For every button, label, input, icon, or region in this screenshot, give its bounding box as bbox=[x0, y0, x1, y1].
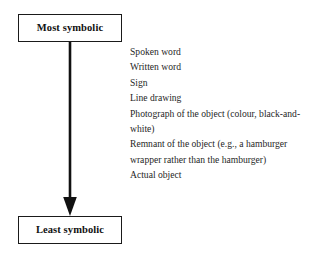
down-arrow-icon bbox=[60, 42, 80, 216]
least-symbolic-box: Least symbolic bbox=[18, 216, 122, 244]
list-item: Spoken word bbox=[130, 44, 320, 59]
most-symbolic-label: Most symbolic bbox=[37, 23, 103, 34]
list-item: Photograph of the object (colour, black-… bbox=[130, 106, 320, 137]
list-item: Sign bbox=[130, 75, 320, 90]
list-item: Remnant of the object (e.g., a hamburger… bbox=[130, 136, 320, 167]
list-item: Line drawing bbox=[130, 90, 320, 105]
list-item: Actual object bbox=[130, 167, 320, 182]
most-symbolic-box: Most symbolic bbox=[18, 14, 122, 42]
least-symbolic-label: Least symbolic bbox=[36, 225, 104, 236]
symbolic-hierarchy-diagram: Most symbolic Least symbolic Spoken word… bbox=[0, 0, 332, 259]
list-item: Written word bbox=[130, 59, 320, 74]
symbolic-items-list: Spoken word Written word Sign Line drawi… bbox=[130, 44, 320, 183]
